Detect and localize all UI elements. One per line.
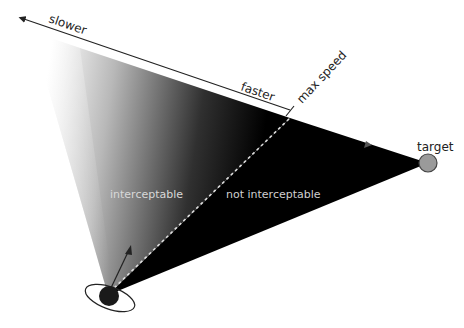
- target-node: [419, 154, 437, 172]
- faster-label: faster: [239, 80, 277, 105]
- not-interceptable-label: not interceptable: [226, 188, 321, 201]
- target-label: target: [417, 140, 454, 154]
- intercept-diagram: slower faster max speed target intercept…: [0, 0, 464, 328]
- max-speed-label: max speed: [294, 48, 349, 106]
- interceptable-label: interceptable: [110, 188, 183, 201]
- agent-node: [99, 286, 119, 306]
- max-speed-tick: [286, 106, 294, 116]
